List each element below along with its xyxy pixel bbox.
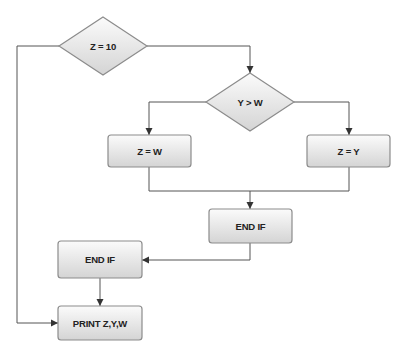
connector-d1-to-d2 — [147, 46, 250, 73]
node-label: Z = W — [137, 146, 162, 157]
flowchart-canvas: Z = 10Y > WZ = WZ = YEND IFEND IFPRINT Z… — [0, 0, 401, 350]
node-label: Y > W — [238, 97, 263, 108]
decision-node-d1: Z = 10 — [59, 17, 147, 75]
node-label: Z = 10 — [90, 41, 116, 52]
process-node-b1: Z = W — [108, 135, 191, 167]
node-label: PRINT Z,Y,W — [73, 318, 128, 329]
process-node-b3: END IF — [209, 209, 292, 243]
connector-d2-to-b2 — [294, 102, 349, 135]
node-label: Z = Y — [338, 146, 361, 157]
edges-layer — [17, 46, 349, 323]
connector-b1-to-b3 — [149, 167, 250, 191]
node-label: END IF — [85, 254, 115, 265]
node-label: END IF — [236, 221, 266, 232]
connector-d1-to-b5 — [17, 46, 59, 323]
connector-b3-to-b4 — [142, 243, 250, 260]
process-node-b2: Z = Y — [307, 135, 390, 167]
decision-node-d2: Y > W — [206, 73, 294, 131]
process-node-b5: PRINT Z,Y,W — [58, 306, 142, 340]
process-node-b4: END IF — [58, 241, 142, 278]
connector-d2-to-b1 — [149, 102, 206, 135]
nodes-layer: Z = 10Y > WZ = WZ = YEND IFEND IFPRINT Z… — [58, 17, 390, 340]
connector-b2-to-b3 — [250, 167, 349, 209]
